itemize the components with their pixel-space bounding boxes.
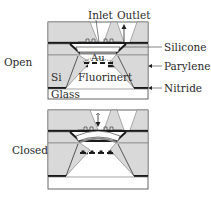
closed-state-panel: Closed [12, 110, 148, 189]
closed-state-label: Closed [12, 144, 48, 156]
fluorinert-label: Fluorinert [78, 71, 133, 83]
top-wafer-left [48, 22, 98, 42]
glass-label: Glass [51, 88, 80, 100]
open-state-panel: Inlet Outlet Au Fluorinert Si Glass Open… [4, 9, 210, 100]
inlet-label: Inlet [88, 9, 113, 21]
silicone-callout: Silicone [164, 41, 206, 53]
si-label: Si [51, 71, 62, 83]
microvalve-diagram: Inlet Outlet Au Fluorinert Si Glass Open… [0, 0, 211, 201]
parylene-callout: Parylene [164, 60, 210, 72]
open-state-label: Open [4, 56, 33, 68]
au-label: Au [90, 52, 105, 63]
outlet-label: Outlet [117, 9, 151, 21]
nitride-callout: Nitride [164, 82, 202, 94]
